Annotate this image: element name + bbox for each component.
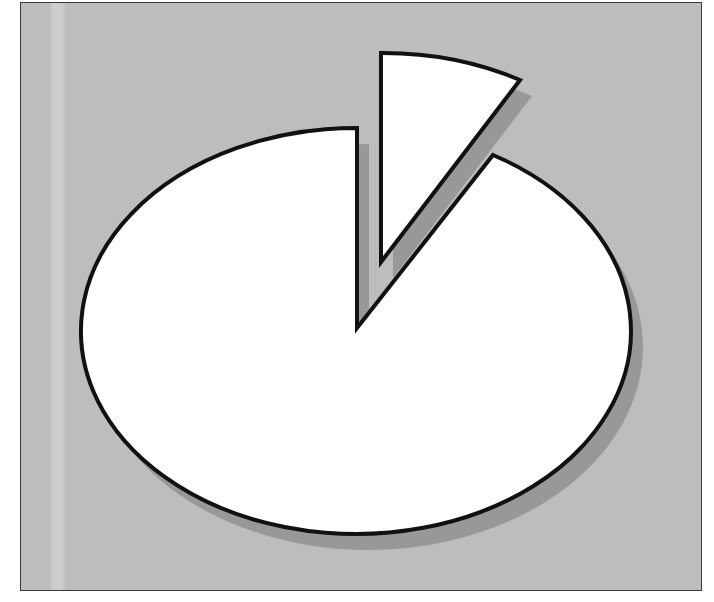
pie-chart	[0, 0, 714, 602]
pie-slice-main	[81, 128, 631, 534]
